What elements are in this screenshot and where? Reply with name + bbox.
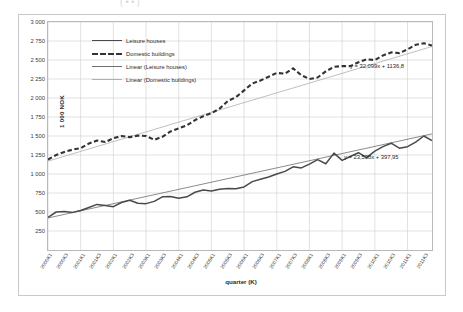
- x-tick-label: 2011K1: [399, 252, 413, 269]
- y-tick-label: 2 000: [30, 95, 45, 101]
- x-tick-label: 2011K3: [415, 252, 429, 269]
- x-tick-label: 2010K1: [366, 252, 380, 270]
- legend-key-solid-icon: [92, 37, 122, 45]
- top-faint-strip: ( • • ): [0, 0, 463, 14]
- y-tick-label: 750: [35, 190, 45, 196]
- x-tick-label: 2003K3: [153, 252, 167, 270]
- x-axis-title: quarter (K): [48, 278, 434, 285]
- legend-label: Linear (Domestic buildings): [126, 77, 196, 83]
- y-tick-label: 3 000: [30, 19, 45, 25]
- x-tick-label: 2002K1: [104, 252, 118, 270]
- y-tick-label: 1 750: [30, 114, 45, 120]
- legend-item-linear-domestic-buildings: Linear (Domestic buildings): [92, 73, 196, 86]
- x-tick-label: 2006K1: [235, 252, 249, 270]
- legend-key-dashed-icon: [92, 50, 122, 58]
- x-tick-label: 2010K3: [382, 252, 396, 270]
- plot-area: 1 000 NOK 2505007501 0001 2501 5001 7502…: [47, 21, 433, 251]
- x-tick-label: 2006K3: [251, 252, 265, 270]
- x-tick-label: 2009K3: [349, 252, 363, 270]
- screenshot-root: ( • • ) 1 000 NOK 2505007501 0001 2501 5…: [0, 0, 463, 312]
- x-tick-label: 2001K3: [88, 252, 102, 270]
- legend-label: Leisure houses: [126, 38, 165, 44]
- x-tick-label: 2005K3: [219, 252, 233, 270]
- x-tick-label: 2001K1: [72, 252, 86, 270]
- x-tick-label: 2008K1: [300, 252, 314, 270]
- x-tick-label: 2003K1: [137, 252, 151, 270]
- annotation-leisure-trend-equation: y = 23,538x + 397,95: [344, 154, 398, 160]
- legend-label: Linear (Leisure houses): [126, 64, 187, 70]
- x-tick-label: 2009K1: [333, 252, 347, 270]
- x-tick-label: 2008K3: [317, 252, 331, 270]
- x-tick-label: 2007K1: [268, 252, 282, 270]
- legend-label: Domestic buildings: [126, 51, 175, 57]
- x-tick-label: 2004K1: [170, 252, 184, 270]
- y-tick-label: 2 250: [30, 76, 45, 82]
- y-tick-label: 1 000: [30, 171, 45, 177]
- y-tick-label: 1 250: [30, 152, 45, 158]
- x-tick-label: 2004K3: [186, 252, 200, 270]
- y-tick-label: 500: [35, 209, 45, 215]
- y-tick-label: 250: [35, 228, 45, 234]
- annotation-domestic-trend-equation: y = 32,099x + 1136,8: [350, 63, 404, 69]
- x-tick-label: 2002K3: [121, 252, 135, 270]
- y-axis-title: 1 000 NOK: [58, 77, 65, 147]
- y-tick-label: 2 750: [30, 38, 45, 44]
- legend-item-domestic-buildings: Domestic buildings: [92, 47, 196, 60]
- top-faint-text: ( • • ): [120, 0, 140, 7]
- x-tick-label: 2000K3: [55, 252, 69, 270]
- legend-key-trend-light-icon: [92, 76, 122, 84]
- legend-item-linear-leisure-houses: Linear (Leisure houses): [92, 60, 196, 73]
- legend-key-trend-thin-icon: [92, 63, 122, 71]
- chart-frame: 1 000 NOK 2505007501 0001 2501 5001 7502…: [18, 14, 446, 296]
- x-tick-label: 2007K3: [284, 252, 298, 270]
- x-tick-label: 2000K1: [39, 252, 53, 270]
- y-tick-label: 1 500: [30, 133, 45, 139]
- y-tick-label: 2 500: [30, 57, 45, 63]
- x-tick-label: 2005K1: [202, 252, 216, 270]
- legend-item-leisure-houses: Leisure houses: [92, 34, 196, 47]
- chart-legend: Leisure houses Domestic buildings Linear…: [92, 34, 196, 86]
